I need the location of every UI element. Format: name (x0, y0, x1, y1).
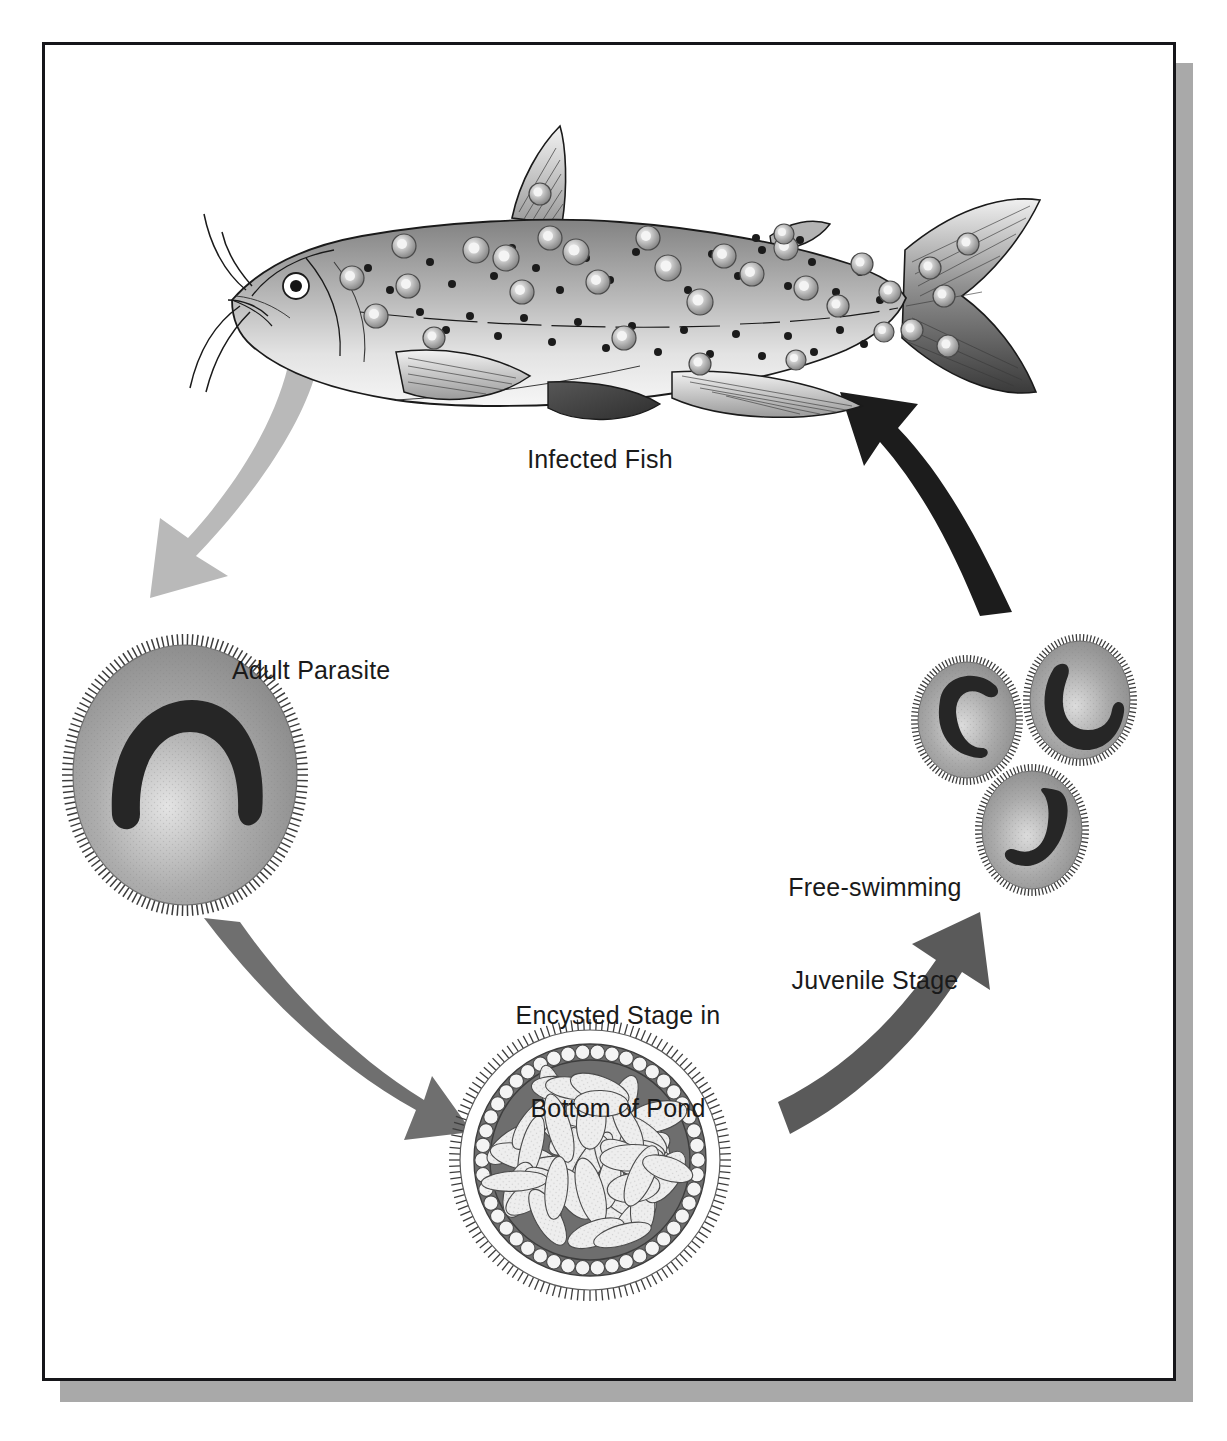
label-adult-parasite: Adult Parasite (232, 655, 532, 686)
arrow-fish-to-adult (150, 366, 316, 598)
label-encysted-line2: Bottom of Pond (458, 1093, 778, 1124)
juvenile-1 (911, 655, 1023, 785)
label-free-swimming-juvenile-stage: Free-swimming Juvenile Stage (740, 810, 1010, 1058)
arrow-juvenile-to-fish (840, 392, 1012, 616)
label-infected-fish: Infected Fish (430, 444, 770, 475)
arrow-adult-to-cyst (204, 918, 472, 1140)
label-encysted-line1: Encysted Stage in (458, 1000, 778, 1031)
life-cycle-artwork (0, 0, 1227, 1441)
infected-fish (190, 126, 1040, 420)
label-encysted-stage: Encysted Stage in Bottom of Pond (458, 938, 778, 1186)
diagram-page: Infected Fish Adult Parasite Free-swimmi… (0, 0, 1227, 1441)
juvenile-2 (1023, 634, 1137, 766)
label-free-swimming-line2: Juvenile Stage (740, 965, 1010, 996)
label-free-swimming-line1: Free-swimming (740, 872, 1010, 903)
